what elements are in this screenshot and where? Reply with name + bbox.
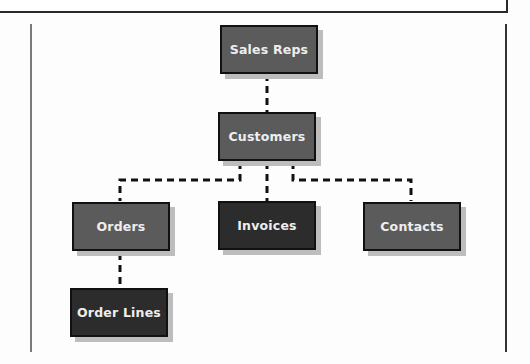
node-label: Invoices (237, 218, 297, 233)
node-order-lines: Order Lines (70, 288, 168, 337)
node-label: Sales Reps (230, 42, 308, 57)
edge-customers-contacts (293, 162, 411, 201)
node-sales-reps: Sales Reps (220, 25, 318, 74)
edge-customers-orders (120, 162, 240, 201)
node-label: Orders (96, 219, 145, 234)
node-contacts: Contacts (363, 202, 461, 251)
node-orders: Orders (72, 202, 170, 251)
node-label: Contacts (380, 219, 444, 234)
node-label: Order Lines (77, 305, 161, 320)
node-label: Customers (229, 129, 306, 144)
node-customers: Customers (218, 112, 316, 161)
node-invoices: Invoices (218, 201, 316, 250)
